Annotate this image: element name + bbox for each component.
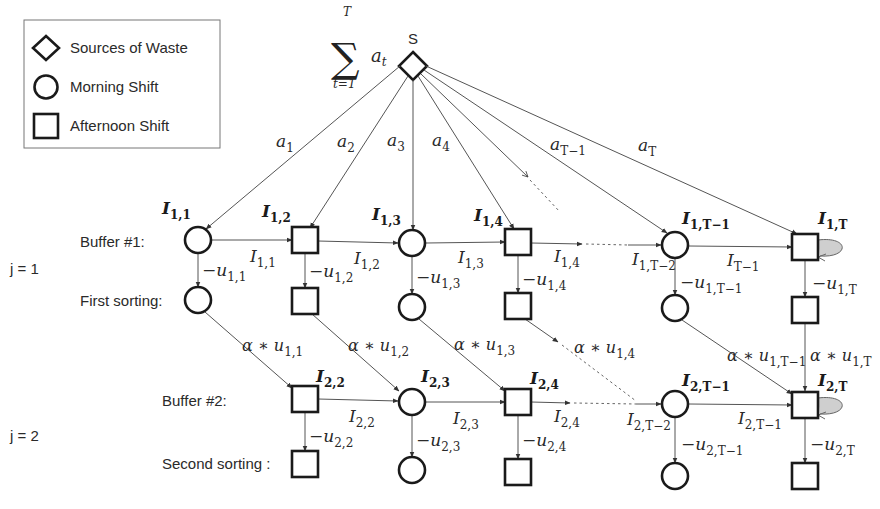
legend-label-afternoon: Afternoon Shift [70,117,170,134]
node-buffer-2-2-afternoon [292,386,318,412]
node-sorting-2-3-morning [399,457,425,483]
carryover-loop-icon [818,240,842,257]
transfer-labels: α ∗ u1,1 α ∗ u1,2 α ∗ u1,3 α ∗ u1,4 α ∗ … [242,335,872,369]
stage1-node-labels: I1,1 I1,2 I1,3 I1,4 I1,T−1 I1,T [161,198,847,232]
sum-symbol: ∑ [331,35,360,81]
inventory-edge-2-T-1 [689,404,792,405]
node-buffer-1-2-afternoon [292,227,318,253]
inventory-label-1-4: I1,4 [553,246,580,270]
sorting-label-2-4: −u2,4 [522,430,567,454]
transfer-edge-4 [525,319,558,342]
node-label-2-3: I2,3 [420,366,450,390]
sorting-label-2-T: −u2,T [810,434,855,458]
sorting-label-1-4: −u1,4 [522,269,567,293]
arrival-edge-2 [310,76,408,228]
node-sorting-2-2-afternoon [292,451,318,477]
inventory-edge-1-2 [318,241,398,243]
node-buffer-1-T-afternoon [792,234,818,260]
node-label-1-1: I1,1 [161,198,191,222]
inventory-label-2-3: I2,3 [452,408,479,432]
node-buffer-2-4-afternoon [505,389,531,415]
inventory-label-2-2: I2,2 [348,406,375,430]
node-label-1-2: I1,2 [261,201,291,225]
node-buffer-2-T-afternoon [792,392,818,418]
node-sorting-2-4-afternoon [505,459,531,485]
waste-sorting-network-diagram: Sources of Waste Morning Shift Afternoon… [0,0,880,509]
node-buffer-2-T-1-morning [662,391,688,417]
sorting-label-2-2: −u2,2 [309,426,353,450]
arrival-label-4: a4 [432,130,450,154]
legend-label-sources: Sources of Waste [70,39,188,56]
arrival-edge-dotted-continuation [530,180,560,212]
carryover-loop-icon [818,398,842,415]
row-label-buffer1: Buffer #1: [80,233,145,250]
inventory-edge-dotted [586,244,628,245]
inventory-edge-2-dotted [574,403,636,404]
node-buffer-1-4-afternoon [505,229,531,255]
sorting-label-1-3: −u1,3 [416,267,460,291]
sum-term: at [371,45,387,69]
arrival-edge-dotted [421,74,528,177]
node-sorting-1-2-afternoon [292,288,318,314]
node-buffer-1-1-morning [185,227,211,253]
inventory-label-2-T-1: I2,T−1 [737,408,782,432]
inventory-edge-1-T-1 [689,246,792,247]
node-label-1-T: I1,T [817,208,847,232]
sorting-label-1-T: −u1,T [812,273,857,297]
sorting-label-1-1: −u1,1 [202,260,246,284]
stage-label-j2: j = 2 [9,427,39,444]
arrival-label-T-1: aT−1 [550,134,586,158]
transfer-label-4: α ∗ u1,4 [574,338,636,361]
node-buffer-1-T-1-morning [662,232,688,258]
square-icon [34,114,58,138]
arrival-label-2: a2 [337,131,355,155]
node-label-1-T-1: I1,T−1 [681,208,730,232]
row-label-first-sorting: First sorting: [80,292,163,309]
self-loop-1-T [818,240,842,261]
stage2-inventory-edges [318,399,792,405]
self-loop-2-T [818,398,842,419]
circle-icon [35,76,58,99]
transfer-label-3: α ∗ u1,3 [454,335,515,358]
inventory-edge-2-4 [531,402,570,403]
stage-label-j1: j = 1 [9,260,39,277]
inventory-label-T-1: IT−1 [726,250,759,274]
arrival-edges [206,66,797,234]
arrival-edge-1 [206,66,400,229]
node-buffer-2-3-morning [399,389,425,415]
row-label-buffer2: Buffer #2: [162,392,227,409]
inventory-edge-2-2 [318,399,398,401]
sorting-label-1-T-1: −u1,T−1 [680,272,742,296]
transfer-label-T-1: α ∗ u1,T−1 [727,346,806,369]
stage2-node-labels: I2,2 I2,3 I2,4 I2,T−1 I2,T [315,366,847,394]
arrival-label-3: a3 [387,130,405,154]
source-label: S [408,30,418,47]
transfer-label-T: α ∗ u1,T [810,346,872,369]
node-sorting-1-T-afternoon [792,297,818,323]
legend: Sources of Waste Morning Shift Afternoon… [24,20,220,148]
node-sorting-2-T-afternoon [792,463,818,489]
node-label-2-2: I2,2 [315,366,345,390]
source-summation: T ∑ t=1 at [331,5,387,91]
sum-upper-limit: T [343,5,352,19]
node-sorting-1-4-afternoon [505,293,531,319]
node-label-2-T: I2,T [817,370,847,394]
node-label-2-4: I2,4 [529,368,559,392]
inventory-label-2-4: I2,4 [553,406,580,430]
arrival-edge-T-1 [424,70,667,233]
inventory-label-1-1: I1,1 [249,246,276,270]
inventory-label-1-2: I1,2 [353,248,380,272]
sum-lower-limit: t=1 [333,77,356,91]
inventory-edge-1-3 [426,242,505,243]
node-sorting-2-T-1-morning [662,463,688,489]
inventory-edge-1-4 [531,243,582,244]
node-label-2-T-1: I2,T−1 [681,370,730,394]
transfer-label-2: α ∗ u1,2 [348,336,409,359]
node-sorting-1-3-morning [399,294,425,320]
inventory-label-1-3: I1,3 [457,247,484,271]
arrival-label-T: aT [638,135,656,159]
transfer-label-1: α ∗ u1,1 [242,336,303,359]
sorting-label-2-T-1: −u2,T−1 [681,434,743,458]
node-sorting-1-1-morning [185,287,211,313]
sorting-label-2-3: −u2,3 [416,430,460,454]
